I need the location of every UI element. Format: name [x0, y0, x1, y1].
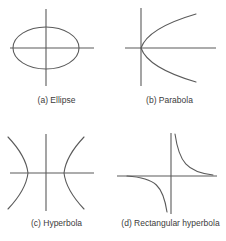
panel-caption: (a) Ellipse [38, 96, 76, 105]
panel-caption: (d) Rectangular hyperbola [121, 219, 219, 228]
panel-caption: (c) Hyperbola [31, 219, 82, 228]
rect-hyperbola-branch-q1 [175, 134, 213, 175]
panel-ellipse: (a) Ellipse [0, 0, 113, 120]
rect-hyperbola-branch-q3 [127, 176, 167, 212]
panel-hyperbola: (c) Hyperbola [0, 120, 113, 241]
conic-sections-figure: (a) Ellipse (b) Parabola (c) Hyperbola (… [0, 0, 226, 241]
parabola-plot [113, 0, 226, 92]
hyperbola-plot [0, 120, 113, 216]
panel-parabola: (b) Parabola [113, 0, 226, 120]
panel-rectangular-hyperbola: (d) Rectangular hyperbola [113, 120, 226, 241]
panel-caption: (b) Parabola [146, 96, 193, 105]
ellipse-plot [0, 0, 113, 92]
rectangular-hyperbola-plot [113, 120, 226, 216]
